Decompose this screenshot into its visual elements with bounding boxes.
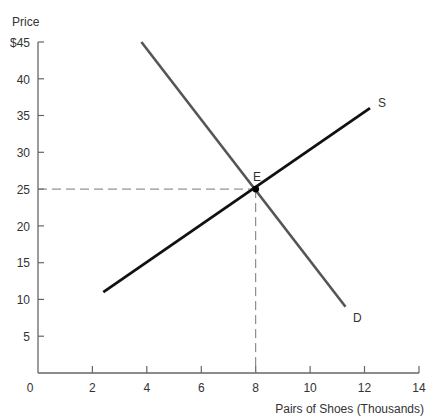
y-tick-label: 35 xyxy=(17,109,31,123)
supply-demand-chart: Price $45 40 35 30 25 20 15 10 5 0 2 4 6… xyxy=(0,0,433,419)
y-tick-label: 25 xyxy=(17,183,31,197)
x-tick-label: 12 xyxy=(358,381,372,395)
y-tick-label: $45 xyxy=(10,36,30,50)
y-tick-label: 30 xyxy=(17,146,31,160)
x-tick-label: 6 xyxy=(198,381,205,395)
x-tick-label: 4 xyxy=(143,381,150,395)
y-tick-label: 5 xyxy=(23,330,30,344)
supply-curve xyxy=(103,108,370,292)
equilibrium-label: E xyxy=(253,170,261,184)
x-axis-title: Pairs of Shoes (Thousands) xyxy=(275,402,424,416)
supply-label: S xyxy=(378,96,386,110)
x-tick-label: 8 xyxy=(252,381,259,395)
demand-curve xyxy=(141,42,345,307)
x-tick-label: 10 xyxy=(303,381,317,395)
y-tick-label: 15 xyxy=(17,256,31,270)
y-axis-title: Price xyxy=(12,15,40,29)
y-tick-label: 20 xyxy=(17,220,31,234)
x-tick-label: 14 xyxy=(412,381,426,395)
y-tick-label: 40 xyxy=(17,73,31,87)
equilibrium-point xyxy=(252,186,259,193)
y-tick-label: 10 xyxy=(17,293,31,307)
origin-label: 0 xyxy=(27,381,34,395)
demand-label: D xyxy=(353,311,362,325)
x-tick-label: 2 xyxy=(89,381,96,395)
